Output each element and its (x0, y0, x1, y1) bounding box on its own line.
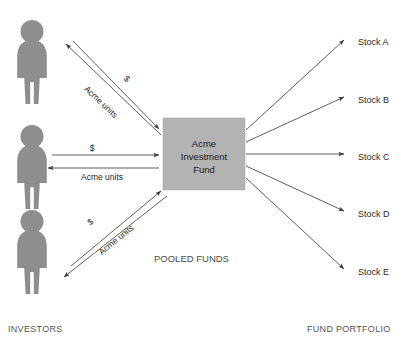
holding-label-stock-a: Stock A (358, 37, 389, 47)
fund-box-line-2: Investment (181, 151, 228, 162)
fund-box-line-3: Fund (193, 164, 215, 175)
investor-figure-middle (17, 125, 47, 209)
holding-arrow-stock-e (246, 178, 344, 269)
fund-flow-diagram: $ Acme units $ Acme units $ Acme units A… (0, 0, 410, 353)
flow-top-money-label: $ (122, 74, 133, 85)
investor-figure-bottom (17, 210, 47, 294)
holding-arrow-stock-a (246, 40, 344, 130)
flow-middle-units-label: Acme units (81, 172, 123, 182)
holding-arrow-stock-d (246, 166, 344, 211)
portfolio-section-label: FUND PORTFOLIO (307, 324, 391, 334)
pooled-funds-label: POOLED FUNDS (154, 253, 229, 264)
holding-label-stock-e: Stock E (358, 267, 389, 277)
investor-figure-top (17, 20, 47, 104)
flow-top-units (66, 44, 161, 135)
fund-box-line-1: Acme (192, 138, 216, 149)
holding-label-stock-b: Stock B (358, 95, 389, 105)
investors-section-label: INVESTORS (8, 324, 63, 334)
flow-bottom-money (71, 191, 161, 266)
diagram-canvas: $ Acme units $ Acme units $ Acme units A… (0, 0, 410, 353)
holding-label-stock-c: Stock C (358, 152, 390, 162)
flow-bottom-money-label: $ (85, 216, 95, 227)
flow-top-units-label: Acme units (82, 84, 119, 120)
flow-middle-money-label: $ (90, 143, 95, 153)
holding-arrow-stock-b (246, 97, 344, 142)
holding-label-stock-d: Stock D (358, 209, 390, 219)
